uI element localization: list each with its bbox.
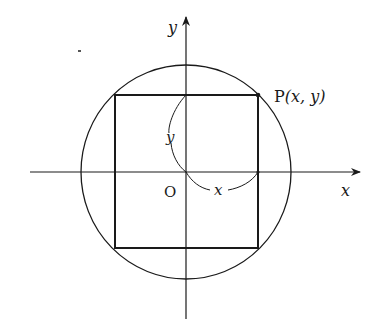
width-dimension-label: x [214,181,223,199]
stray-mark [78,50,81,52]
point-p-coords: (x, y) [285,87,326,106]
height-dimension-label: y [165,128,175,146]
x-axis-label: x [341,181,350,200]
point-p-name: P [274,87,285,106]
y-axis-label: y [167,18,178,37]
origin-label: O [164,183,176,201]
point-p-label: P(x, y) [274,87,325,106]
diagram-canvas: y x O P(x, y) y x [0,0,382,331]
point-p [256,93,261,98]
